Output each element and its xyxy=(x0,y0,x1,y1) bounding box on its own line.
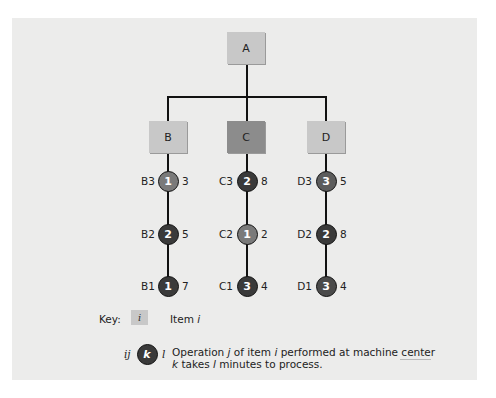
text: takes xyxy=(178,358,213,370)
key-op-line-1: Operation j of item i performed at machi… xyxy=(172,346,435,358)
op-time-d1: 4 xyxy=(340,280,347,292)
key-item-description: Item i xyxy=(170,313,200,325)
connector-a-trunk xyxy=(246,64,248,98)
machine-center-node-c1: 3 xyxy=(237,276,258,297)
machine-center-node-b1: 1 xyxy=(158,276,179,297)
key-op-right-label: l xyxy=(162,348,165,360)
connector-to-c xyxy=(246,96,248,121)
key-op-description: Operation j of item i performed at machi… xyxy=(172,346,435,370)
item-box-d: D xyxy=(307,121,345,153)
machine-center-node-c3: 2 xyxy=(237,171,258,192)
item-box-a: A xyxy=(227,32,265,64)
op-label-b1: B1 xyxy=(135,280,155,292)
op-time-b2: 5 xyxy=(182,228,189,240)
machine-center-node-d1: 3 xyxy=(316,276,337,297)
diagram-panel xyxy=(12,18,477,380)
op-label-c1: C1 xyxy=(213,280,233,292)
op-time-c1: 4 xyxy=(261,280,268,292)
op-time-d2: 8 xyxy=(340,228,347,240)
op-time-d3: 5 xyxy=(340,175,347,187)
key-item-var: i xyxy=(197,313,200,325)
op-label-d1: D1 xyxy=(292,280,312,292)
key-item-prefix: Item xyxy=(170,313,197,325)
text: of item xyxy=(231,346,275,358)
op-label-c2: C2 xyxy=(213,228,233,240)
key-op-left-label: ij xyxy=(124,348,131,360)
item-box-c: C xyxy=(227,121,265,153)
op-time-c2: 2 xyxy=(261,228,268,240)
op-label-d3: D3 xyxy=(292,175,312,187)
machine-center-node-d3: 3 xyxy=(316,171,337,192)
text: Operation xyxy=(172,346,228,358)
key-machine-center-node: k xyxy=(137,344,158,365)
key-op-line-2: k takes l minutes to process. xyxy=(172,358,435,370)
key-item-swatch: i xyxy=(131,310,148,325)
machine-center-node-b2: 2 xyxy=(158,224,179,245)
op-time-b1: 7 xyxy=(182,280,189,292)
op-label-c3: C3 xyxy=(213,175,233,187)
op-label-b2: B2 xyxy=(135,228,155,240)
op-label-d2: D2 xyxy=(292,228,312,240)
text: performed at machine center xyxy=(277,346,435,358)
machine-center-node-c2: 1 xyxy=(237,224,258,245)
machine-center-node-d2: 2 xyxy=(316,224,337,245)
op-label-b3: B3 xyxy=(135,175,155,187)
decorative-rule xyxy=(400,359,431,360)
op-time-b3: 3 xyxy=(182,175,189,187)
connector-to-d xyxy=(325,96,327,121)
item-box-b: B xyxy=(149,121,187,153)
key-heading: Key: xyxy=(99,313,121,325)
connector-to-b xyxy=(167,96,169,121)
text: minutes to process. xyxy=(216,358,323,370)
op-time-c3: 8 xyxy=(261,175,268,187)
machine-center-node-b3: 1 xyxy=(158,171,179,192)
